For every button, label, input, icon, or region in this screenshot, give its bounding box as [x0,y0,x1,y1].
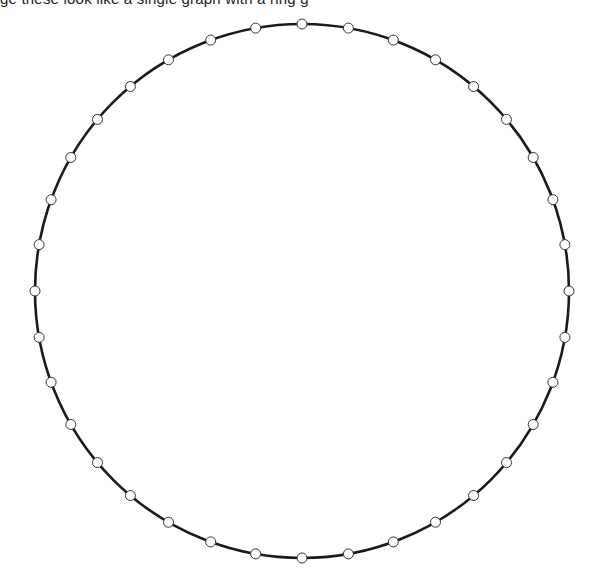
ring-nodes [30,19,574,563]
graph-node [528,420,538,430]
graph-node [46,195,56,205]
graph-node [469,82,479,92]
graph-node [431,55,441,65]
graph-node [388,537,398,547]
graph-node [93,458,103,468]
graph-node [30,286,40,296]
graph-node [502,114,512,124]
graph-node [251,23,261,33]
graph-node [46,377,56,387]
graph-node [343,549,353,559]
graph-node [548,377,558,387]
graph-node [502,458,512,468]
graph-node [93,114,103,124]
graph-node [560,240,570,250]
graph-node [206,537,216,547]
ring-graph [0,0,616,582]
graph-node [164,55,174,65]
graph-node [469,491,479,501]
graph-node [251,549,261,559]
ring-edge [35,24,569,558]
graph-node [343,23,353,33]
graph-node [66,153,76,163]
graph-node [297,553,307,563]
graph-node [66,420,76,430]
graph-node [560,332,570,342]
graph-node [164,517,174,527]
graph-node [206,35,216,45]
graph-node [125,491,135,501]
graph-node [388,35,398,45]
graph-node [431,517,441,527]
graph-node [34,240,44,250]
graph-node [34,332,44,342]
graph-node [528,153,538,163]
graph-node [125,82,135,92]
graph-node [297,19,307,29]
graph-node [548,195,558,205]
graph-node [564,286,574,296]
